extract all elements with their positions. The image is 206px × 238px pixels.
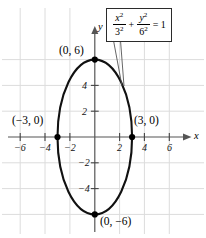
ytick-label-4: 4 [82,81,87,91]
equation-callout-box: x2 32 + y2 62 = 1 [106,8,172,42]
xtick-label-2: 2 [117,143,122,153]
point-label-left: (−3, 0) [12,115,43,127]
fraction-y-denominator: 62 [137,26,150,38]
ytick-label-minus4: −4 [78,184,90,194]
fraction-y-term: y2 62 [137,12,150,38]
ytick-label-2: 2 [82,107,87,117]
vertex-marker-bottom [92,211,98,217]
xtick-label-minus6: −6 [14,143,26,153]
equation-row: x2 32 + y2 62 = 1 [112,12,166,38]
xtick-label-4: 4 [142,143,147,153]
vertex-marker-left [54,134,60,140]
point-label-top: (0, 6) [59,45,84,57]
x-axis-label: x [194,131,199,142]
fraction-x-term: x2 32 [113,12,126,38]
fraction-y-numerator: y2 [137,12,149,24]
vertex-marker-top [92,57,98,63]
xtick-label-6: 6 [167,143,172,153]
vertex-marker-right [129,134,135,140]
ytick-label-minus2: −2 [78,158,90,168]
fraction-x-denominator: 32 [113,26,126,38]
point-label-right: (3, 0) [134,115,159,127]
equation-right-hand-side: = 1 [153,20,166,30]
y-axis-label: y [98,22,103,33]
xtick-label-minus2: −2 [64,143,76,153]
ellipse-graph-figure: −6 −4 −2 2 4 6 4 2 −2 −4 x y (0, 6) (0, … [0,0,206,238]
plus-operator: + [129,20,135,30]
point-label-bottom: (0, −6) [100,216,131,228]
xtick-label-minus4: −4 [39,143,51,153]
fraction-x-numerator: x2 [113,12,125,24]
